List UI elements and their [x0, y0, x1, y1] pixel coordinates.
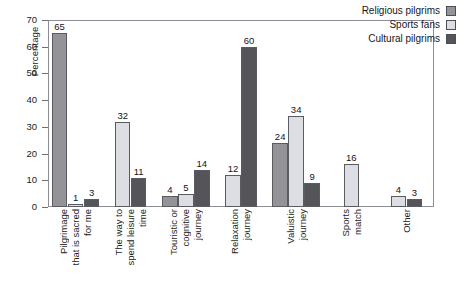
bar	[194, 170, 210, 207]
x-axis-category-line: Sports	[340, 209, 351, 236]
bar-value-label: 16	[339, 152, 365, 163]
legend-color-swatch	[446, 20, 456, 30]
legend-color-swatch	[446, 34, 456, 44]
legend-item: Religious pilgrims	[362, 5, 456, 17]
bar	[115, 122, 131, 207]
bar-value-label: 11	[126, 166, 152, 177]
x-axis-category-line: Touristic or	[168, 209, 179, 255]
bar	[241, 47, 257, 207]
bar	[162, 196, 178, 207]
y-axis-tick-label: 10	[26, 173, 37, 186]
y-axis-tick-label: 50	[26, 66, 37, 79]
y-axis-tick-label: 60	[26, 40, 37, 53]
x-axis-category-line: time	[137, 209, 148, 227]
x-axis-category-label: The way tospend leisuretime	[103, 209, 158, 300]
x-axis-category-line: journey	[241, 209, 252, 240]
bar-value-label: 3	[402, 187, 428, 198]
x-axis-category-label: Valuisticjourney	[269, 209, 324, 300]
x-axis-category-line: spend leisure	[125, 209, 136, 266]
bar	[68, 204, 84, 207]
x-axis-category-line: cognitive	[180, 209, 191, 247]
bar-chart: Percentage 010203040506070 6513321145141…	[0, 0, 464, 300]
bar-value-label: 65	[47, 21, 73, 32]
bar-value-label: 9	[299, 171, 325, 182]
legend-color-swatch	[446, 6, 456, 16]
x-axis-category-labels: Pilgrimagethat is sacredfor meThe way to…	[48, 209, 434, 300]
bars-layer: 6513321145141260243491643	[48, 20, 434, 207]
bar	[52, 33, 68, 207]
legend-item-label: Cultural pilgrims	[368, 33, 440, 45]
x-axis-category-line: that is sacred	[70, 209, 81, 266]
x-axis-category-line: Valuistic	[285, 209, 296, 244]
x-axis-category-label: Relaxationjourney	[213, 209, 268, 300]
legend-item: Sports fans	[389, 19, 456, 31]
legend-item-label: Sports fans	[389, 19, 440, 31]
bar	[344, 164, 360, 207]
x-axis-category-line: journey	[297, 209, 308, 240]
bar	[131, 178, 147, 207]
y-axis-tick-label: 0	[32, 200, 37, 213]
legend-item: Cultural pilgrims	[368, 33, 456, 45]
bar	[304, 183, 320, 207]
x-axis-category-label: Sportsmatch	[324, 209, 379, 300]
bar	[178, 194, 194, 207]
bar-value-label: 14	[189, 158, 215, 169]
bar-value-label: 32	[110, 110, 136, 121]
bar	[288, 116, 304, 207]
bar	[225, 175, 241, 207]
x-axis-category-line: match	[352, 209, 363, 235]
x-axis-category-label: Other	[379, 209, 434, 300]
y-axis-tick-label: 70	[26, 13, 37, 26]
y-axis-tick-label: 30	[26, 120, 37, 133]
legend: Religious pilgrimsSports fansCultural pi…	[362, 5, 456, 45]
bar	[84, 199, 100, 207]
x-axis-category-line: Pilgrimage	[58, 209, 69, 254]
y-axis-tick-label: 20	[26, 147, 37, 160]
x-axis-category-line: The way to	[113, 209, 124, 255]
y-axis-tick-label: 40	[26, 93, 37, 106]
bar	[272, 143, 288, 207]
bar	[407, 199, 423, 207]
x-axis-category-line: for me	[82, 209, 93, 236]
bar-value-label: 60	[236, 35, 262, 46]
x-axis-category-label: Pilgrimagethat is sacredfor me	[48, 209, 103, 300]
x-axis-category-line: Relaxation	[229, 209, 240, 254]
bar-value-label: 34	[283, 104, 309, 115]
bar-value-label: 3	[79, 187, 105, 198]
x-axis-category-line: journey	[192, 209, 203, 240]
y-axis-tick-mark	[42, 207, 48, 208]
legend-item-label: Religious pilgrims	[362, 5, 440, 17]
x-axis-category-label: Touristic orcognitivejourney	[158, 209, 213, 300]
x-axis-category-line: Other	[401, 209, 412, 233]
